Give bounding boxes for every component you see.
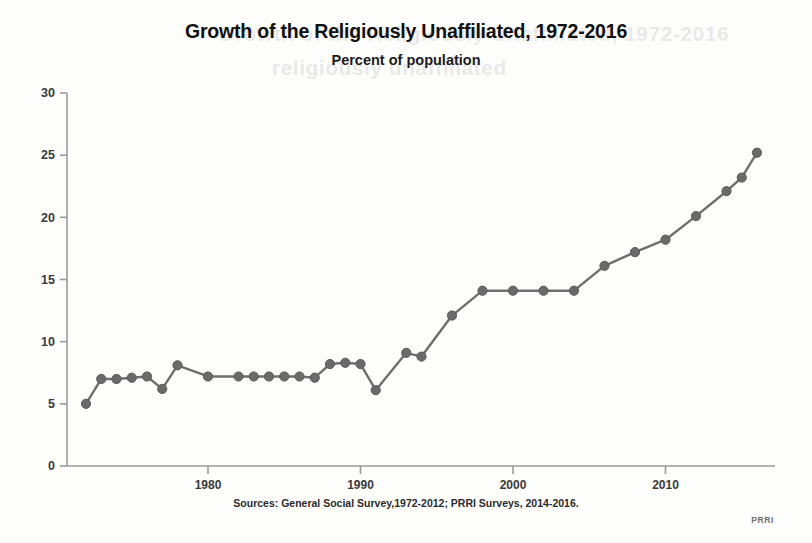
data-point-marker xyxy=(752,148,761,157)
data-point-marker xyxy=(81,399,90,408)
data-point-marker xyxy=(158,384,167,393)
data-point-marker xyxy=(630,248,639,257)
data-point-marker xyxy=(371,386,380,395)
series-line xyxy=(86,153,757,404)
data-point-marker xyxy=(234,372,243,381)
x-tick-label: 2000 xyxy=(500,478,527,492)
chart-container: Growth of the Religiously Unaffiliated, … xyxy=(0,0,812,543)
data-point-marker xyxy=(249,372,258,381)
y-tick-label: 10 xyxy=(41,335,55,349)
data-point-marker xyxy=(325,359,334,368)
data-point-marker xyxy=(508,286,517,295)
y-tick-label: 0 xyxy=(48,459,55,473)
y-axis: 302520151050 xyxy=(41,86,67,473)
prri-watermark: PRRI xyxy=(751,515,774,525)
data-point-marker xyxy=(539,286,548,295)
data-point-marker xyxy=(310,373,319,382)
y-tick-label: 5 xyxy=(48,397,55,411)
data-point-marker xyxy=(661,235,670,244)
chart-source-note: Sources: General Social Survey,1972-2012… xyxy=(0,497,812,509)
plot-area: 302520151050 1980199020002010 xyxy=(0,0,812,543)
data-series xyxy=(81,148,761,408)
data-point-marker xyxy=(737,173,746,182)
x-tick-label: 1980 xyxy=(195,478,222,492)
data-point-marker xyxy=(569,286,578,295)
data-point-marker xyxy=(142,372,151,381)
data-point-marker xyxy=(112,374,121,383)
y-tick-label: 20 xyxy=(41,211,55,225)
data-point-marker xyxy=(280,372,289,381)
data-point-marker xyxy=(295,372,304,381)
data-point-marker xyxy=(417,352,426,361)
data-point-marker xyxy=(127,373,136,382)
data-point-marker xyxy=(600,261,609,270)
y-tick-label: 30 xyxy=(41,86,55,100)
data-point-marker xyxy=(722,187,731,196)
data-point-marker xyxy=(341,358,350,367)
data-point-marker xyxy=(264,372,273,381)
y-tick-label: 25 xyxy=(41,148,55,162)
data-point-marker xyxy=(478,286,487,295)
data-point-marker xyxy=(402,348,411,357)
data-point-marker xyxy=(356,359,365,368)
data-point-marker xyxy=(447,311,456,320)
data-point-marker xyxy=(173,361,182,370)
x-tick-label: 2010 xyxy=(652,478,679,492)
data-point-marker xyxy=(97,374,106,383)
x-tick-label: 1990 xyxy=(347,478,374,492)
data-point-marker xyxy=(691,211,700,220)
data-point-marker xyxy=(203,372,212,381)
x-axis: 1980199020002010 xyxy=(67,466,775,492)
y-tick-label: 15 xyxy=(41,273,55,287)
